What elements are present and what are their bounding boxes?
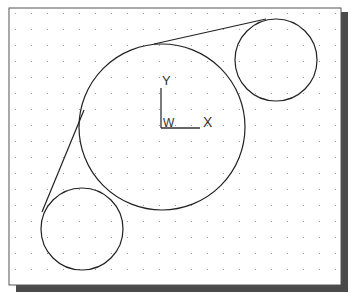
grid-dot <box>159 109 160 110</box>
grid-dot <box>31 205 32 206</box>
grid-dot <box>31 173 32 174</box>
frame-shadow-bottom <box>16 285 348 292</box>
grid-dot <box>335 29 336 30</box>
grid-dot <box>175 173 176 174</box>
grid-dot <box>335 157 336 158</box>
grid-dot <box>191 269 192 270</box>
grid-dot <box>47 157 48 158</box>
grid-dot <box>15 93 16 94</box>
grid-dot <box>31 141 32 142</box>
grid-dot <box>31 125 32 126</box>
grid-dot <box>207 109 208 110</box>
grid-dot <box>127 61 128 62</box>
grid-dot <box>319 141 320 142</box>
grid-dot <box>303 77 304 78</box>
grid-dot <box>191 125 192 126</box>
grid-dot <box>303 45 304 46</box>
grid-dot <box>207 61 208 62</box>
grid-dot <box>223 61 224 62</box>
grid-dot <box>127 269 128 270</box>
grid-dot <box>79 93 80 94</box>
grid-dot <box>15 77 16 78</box>
grid-dot <box>95 173 96 174</box>
grid-dot <box>207 157 208 158</box>
grid-dot <box>95 141 96 142</box>
grid-dot <box>239 221 240 222</box>
grid-dot <box>207 237 208 238</box>
grid-dot <box>159 253 160 254</box>
grid-dot <box>15 13 16 14</box>
grid-dot <box>191 221 192 222</box>
grid-dot <box>303 109 304 110</box>
grid-dot <box>47 141 48 142</box>
grid-dot <box>79 109 80 110</box>
grid-dot <box>303 205 304 206</box>
grid-dot <box>143 61 144 62</box>
grid-dot <box>191 109 192 110</box>
grid-dot <box>143 205 144 206</box>
grid-dot <box>111 45 112 46</box>
grid-dot <box>47 253 48 254</box>
grid-dot <box>143 189 144 190</box>
grid-dot <box>63 173 64 174</box>
grid-dot <box>111 109 112 110</box>
grid-dot <box>271 61 272 62</box>
grid-dot <box>47 29 48 30</box>
grid-dot <box>287 45 288 46</box>
grid-dot <box>63 189 64 190</box>
frame-border <box>9 8 341 285</box>
grid-dot <box>271 77 272 78</box>
grid-dot <box>223 93 224 94</box>
grid-dot <box>223 45 224 46</box>
grid-dot <box>303 157 304 158</box>
grid-dot <box>287 189 288 190</box>
grid-dot <box>159 141 160 142</box>
grid-dot <box>191 29 192 30</box>
grid-dot <box>31 269 32 270</box>
grid-dot <box>175 221 176 222</box>
grid-dot <box>63 141 64 142</box>
grid-dot <box>255 45 256 46</box>
grid-dot <box>159 61 160 62</box>
grid-dot <box>31 221 32 222</box>
grid-dot <box>127 125 128 126</box>
grid-dot <box>159 77 160 78</box>
grid-dot <box>47 269 48 270</box>
grid-dot <box>319 125 320 126</box>
grid-dot <box>175 61 176 62</box>
grid-dot <box>15 141 16 142</box>
cad-drawing-canvas[interactable]: Y W X <box>0 0 354 302</box>
grid-dot <box>95 221 96 222</box>
grid-dot <box>63 269 64 270</box>
grid-dot <box>143 29 144 30</box>
grid-dot <box>319 237 320 238</box>
grid-dot <box>159 221 160 222</box>
grid-dot <box>255 93 256 94</box>
grid-dot <box>127 45 128 46</box>
grid-dot <box>207 77 208 78</box>
grid-dot <box>239 45 240 46</box>
grid-dot <box>127 205 128 206</box>
grid-dot <box>207 93 208 94</box>
grid-dot <box>255 157 256 158</box>
grid-dot <box>159 93 160 94</box>
grid-dot <box>31 77 32 78</box>
grid-dot <box>95 13 96 14</box>
grid-dot <box>335 221 336 222</box>
grid-dot <box>271 269 272 270</box>
grid-dot <box>303 125 304 126</box>
grid-dot <box>303 173 304 174</box>
grid-dot <box>143 157 144 158</box>
grid-dot <box>63 253 64 254</box>
grid-dot <box>191 157 192 158</box>
grid-dot <box>175 157 176 158</box>
grid-dot <box>191 93 192 94</box>
grid-dot <box>319 93 320 94</box>
grid-dot <box>287 237 288 238</box>
grid-dot <box>255 125 256 126</box>
grid-dot <box>287 141 288 142</box>
grid-dot <box>111 237 112 238</box>
grid-dot <box>223 125 224 126</box>
grid-dot <box>79 253 80 254</box>
grid-dot <box>191 237 192 238</box>
